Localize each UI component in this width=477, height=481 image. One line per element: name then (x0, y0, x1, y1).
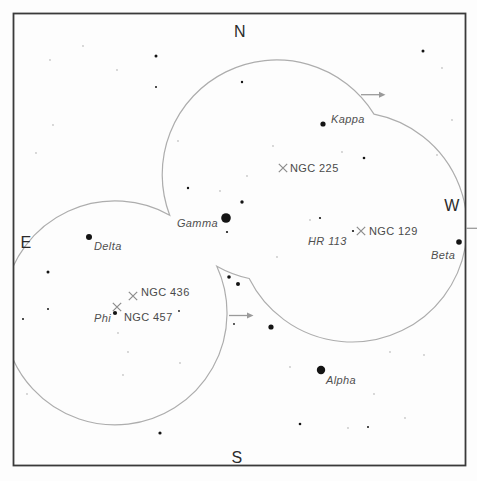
faint-star (276, 256, 278, 258)
faint-star (127, 351, 129, 353)
star (47, 271, 50, 274)
faint-star (309, 219, 311, 221)
star-label-phi: Phi (94, 312, 111, 324)
star (299, 423, 302, 426)
star (113, 311, 117, 315)
faint-star (219, 190, 221, 192)
dso-label-ngc-129: NGC 129 (369, 225, 418, 237)
faint-star (246, 175, 248, 177)
faint-star (341, 151, 343, 153)
chart-background (0, 0, 477, 481)
star (367, 426, 369, 428)
star (233, 323, 235, 325)
star (268, 324, 273, 329)
compass-label-south: S (231, 449, 242, 466)
star-chart: KappaGammaDeltaBetaAlphaPhiHR 113 NGC 22… (0, 0, 477, 481)
faint-star (117, 332, 119, 334)
faint-star (35, 152, 37, 154)
faint-star (423, 354, 425, 356)
faint-star (179, 362, 181, 364)
faint-star (389, 351, 391, 353)
star (236, 282, 240, 286)
compass-label-north: N (234, 23, 246, 40)
star-label-hr-113: HR 113 (308, 235, 347, 247)
star-label-beta: Beta (431, 249, 455, 261)
dso-label-ngc-457: NGC 457 (124, 311, 173, 323)
star (352, 230, 354, 232)
star-label-delta: Delta (94, 240, 122, 252)
star (319, 217, 321, 219)
star (226, 231, 228, 233)
star (241, 81, 243, 83)
faint-star (52, 124, 54, 126)
faint-star (122, 374, 124, 376)
star (227, 275, 231, 279)
faint-star (441, 67, 443, 69)
faint-star (26, 393, 28, 395)
star (47, 308, 49, 310)
dso-label-ngc-225: NGC 225 (290, 162, 339, 174)
star (155, 55, 158, 58)
star (456, 239, 462, 245)
faint-star (272, 145, 274, 147)
dso-label-ngc-436: NGC 436 (141, 286, 190, 298)
faint-star (177, 140, 179, 142)
star (86, 234, 92, 240)
star (187, 187, 189, 189)
star-chart-page: KappaGammaDeltaBetaAlphaPhiHR 113 NGC 22… (0, 0, 477, 481)
faint-star (436, 154, 438, 156)
star-label-gamma: Gamma (177, 217, 218, 229)
faint-star (347, 427, 349, 429)
star (320, 121, 325, 126)
star (178, 310, 180, 312)
compass-label-west: W (444, 197, 460, 214)
star (158, 431, 161, 434)
star (363, 157, 366, 160)
faint-star (82, 45, 84, 47)
faint-star (404, 417, 406, 419)
compass-label-east: E (20, 234, 31, 251)
faint-star (451, 119, 453, 121)
star (422, 50, 425, 53)
star (22, 318, 24, 320)
faint-star (373, 393, 375, 395)
star (240, 200, 243, 203)
star (317, 366, 325, 374)
faint-star (289, 366, 291, 368)
faint-star (49, 59, 51, 61)
star-label-kappa: Kappa (331, 113, 365, 125)
star (221, 213, 231, 223)
star (155, 86, 157, 88)
faint-star (116, 69, 118, 71)
star-label-alpha: Alpha (325, 374, 356, 386)
